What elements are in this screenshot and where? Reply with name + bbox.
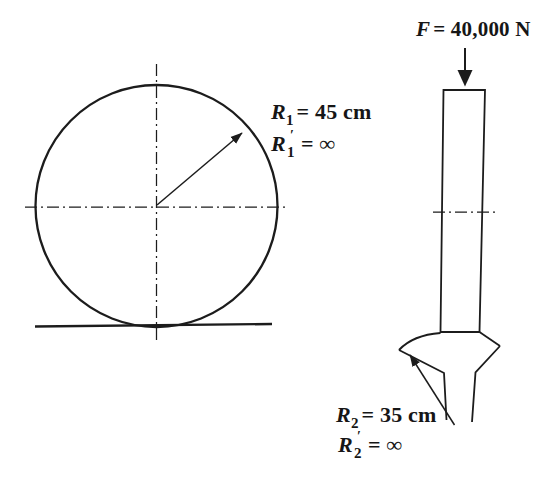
force-arrowhead xyxy=(458,70,473,87)
rail-head-right-edge xyxy=(480,332,501,346)
force-symbol: F xyxy=(416,17,430,41)
r1-prime-subsup: ′1 xyxy=(286,136,298,158)
r1-symbol: R xyxy=(271,99,286,124)
r1-value: = 45 cm xyxy=(297,99,372,124)
r2-prime-label: R′2= ∞ xyxy=(338,434,402,459)
diagram-drawing xyxy=(0,0,541,482)
r1-label: R1= 45 cm xyxy=(271,101,372,123)
force-value: = 40,000 N xyxy=(433,17,530,41)
r2-symbol: R xyxy=(336,402,351,427)
rail-head-right-shoulder-and-web xyxy=(472,346,500,422)
r2-prime-mark: ′ xyxy=(357,430,361,444)
contact-stress-diagram: F= 40,000 N R1= 45 cm R′1= ∞ R2= 35 cm R… xyxy=(0,0,541,482)
r1-prime-subscript: 1 xyxy=(287,145,295,160)
force-label: F= 40,000 N xyxy=(416,19,531,40)
r2-prime-symbol: R xyxy=(338,432,353,457)
r1-prime-mark: ′ xyxy=(290,129,294,143)
rail-head-contact-arc xyxy=(399,333,441,350)
cylinder-figure xyxy=(25,64,287,341)
r2-prime-value: = ∞ xyxy=(368,432,402,457)
r1-subscript: 1 xyxy=(286,112,294,128)
rail-figure xyxy=(399,48,500,425)
r2-prime-subscript: 2 xyxy=(354,446,362,461)
r1-prime-symbol: R xyxy=(271,131,286,156)
r2-prime-subsup: ′2 xyxy=(353,437,365,459)
r2-value: = 35 cm xyxy=(362,402,437,427)
r2-label: R2= 35 cm xyxy=(336,404,437,426)
rail-column-outline xyxy=(441,90,486,332)
radius-r1-arrow xyxy=(157,133,242,205)
r1-prime-label: R′1= ∞ xyxy=(271,133,335,158)
r1-prime-value: = ∞ xyxy=(301,131,335,156)
